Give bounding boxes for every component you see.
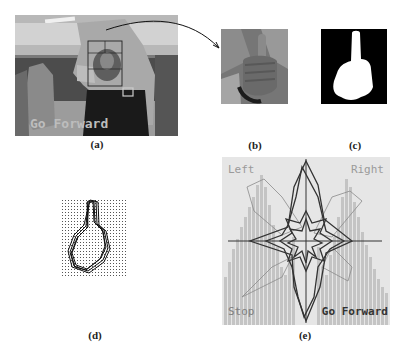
contour-grid-plot xyxy=(58,196,130,280)
panel-a-camera-frame: Go Forward xyxy=(15,15,178,136)
hand-crop-image xyxy=(221,29,288,104)
label-stop: Stop xyxy=(228,305,255,318)
panel-d-contour-grid xyxy=(58,196,130,280)
caption-e: (e) xyxy=(290,329,320,341)
label-left: Left xyxy=(228,163,255,176)
caption-b: (b) xyxy=(240,139,270,151)
caption-d: (d) xyxy=(80,329,110,341)
caption-a: (a) xyxy=(82,138,112,150)
panel-b-hand-crop xyxy=(221,29,288,104)
panel-e-polar-plot: Left Right Stop Go Forward xyxy=(222,157,390,325)
caption-c: (c) xyxy=(340,139,370,151)
hand-mask-image xyxy=(321,29,387,104)
panel-c-binary-mask xyxy=(321,29,387,104)
gesture-label-overlay: Go Forward xyxy=(30,116,108,131)
polar-contour-histogram-plot xyxy=(222,157,390,325)
label-go-forward: Go Forward xyxy=(322,305,388,318)
label-right: Right xyxy=(351,163,384,176)
